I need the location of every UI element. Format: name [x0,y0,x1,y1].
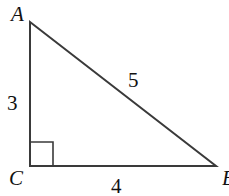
triangle-figure [0,0,229,196]
side-label-ab: 5 [128,70,139,91]
right-angle-marker [30,142,53,166]
side-label-cb: 4 [111,176,122,196]
vertex-label-b: B [222,168,229,189]
vertex-label-a: A [11,4,24,25]
triangle-abc [30,22,216,166]
side-label-ac: 3 [7,93,18,114]
vertex-label-c: C [9,168,23,189]
